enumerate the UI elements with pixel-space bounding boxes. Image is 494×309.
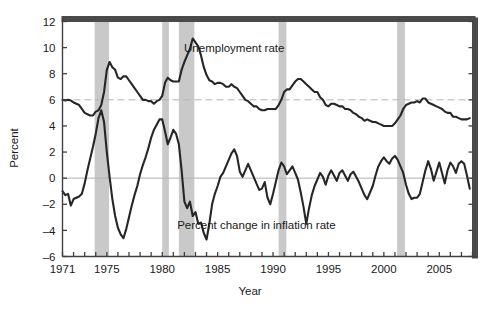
recession-band xyxy=(397,22,405,257)
x-tick-label: 2000 xyxy=(371,263,397,275)
x-tick-label: 1971 xyxy=(50,263,76,275)
y-tick-label: 4 xyxy=(49,120,56,132)
x-tick-label: 1980 xyxy=(149,263,175,275)
y-tick-label: –4 xyxy=(43,225,56,237)
economics-line-chart: –6–4–2024681012 197119751980198519901995… xyxy=(0,0,494,309)
y-axis-title: Percent xyxy=(8,127,20,167)
y-tick-label: –6 xyxy=(43,251,56,263)
chart-figure: –6–4–2024681012 197119751980198519901995… xyxy=(0,0,494,309)
x-tick-label: 1990 xyxy=(260,263,286,275)
x-axis-title: Year xyxy=(238,285,261,297)
x-tick-label: 1975 xyxy=(94,263,120,275)
unemployment-rate-label: Unemployment rate xyxy=(184,42,284,54)
recession-band xyxy=(95,22,109,257)
y-tick-label: 0 xyxy=(49,172,55,184)
x-tick-label: 2005 xyxy=(426,263,452,275)
y-tick-label: –2 xyxy=(43,198,56,210)
inflation-change-label: Percent change in inflation rate xyxy=(177,219,336,231)
x-tick-label: 1995 xyxy=(316,263,342,275)
y-tick-label: 6 xyxy=(49,94,55,106)
y-tick-label: 12 xyxy=(43,16,56,28)
recession-band xyxy=(162,22,169,257)
y-tick-label: 2 xyxy=(49,146,55,158)
y-tick-label: 10 xyxy=(43,42,56,54)
y-tick-label: 8 xyxy=(49,68,55,80)
x-tick-label: 1985 xyxy=(205,263,231,275)
